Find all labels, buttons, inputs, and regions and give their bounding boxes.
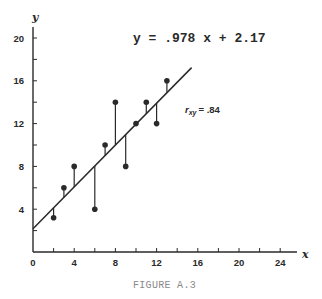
x-tick-label: 4 [72,257,78,268]
axes [33,27,297,252]
axis-ticks: 0481216202448121620 [13,33,286,269]
y-tick-label: 20 [13,33,24,44]
data-point [92,206,98,212]
x-tick-label: 20 [234,257,245,268]
regression-line [33,68,192,229]
data-point [51,215,57,221]
data-point [71,164,77,170]
y-axis-label: y [31,11,40,24]
data-point [144,99,150,105]
x-tick-label: 24 [275,257,286,268]
r-subscript: xy [188,109,198,117]
x-tick-label: 16 [193,257,204,268]
x-axis-label: x [301,248,309,261]
x-tick-label: 12 [151,257,162,268]
figure-caption: FIGURE A.3 [133,280,196,291]
data-point [61,185,67,191]
scatter-chart: 0481216202448121620 y x y = .978 x + 2.1… [0,0,322,299]
y-tick-label: 4 [19,204,25,215]
regression-equation: y = .978 x + 2.17 [133,31,266,46]
x-tick-label: 8 [113,257,118,268]
x-tick-label: 0 [30,257,35,268]
y-tick-label: 8 [19,161,24,172]
data-point [102,142,108,148]
fit-line [33,68,192,229]
data-point [164,78,170,84]
data-point [154,121,160,127]
data-point [113,99,119,105]
y-tick-label: 16 [13,75,24,86]
y-tick-label: 12 [13,118,24,129]
r-value: = .84 [199,104,221,115]
data-point [123,164,129,170]
correlation-label: rxy= .84 [185,104,221,117]
data-point [133,121,139,127]
